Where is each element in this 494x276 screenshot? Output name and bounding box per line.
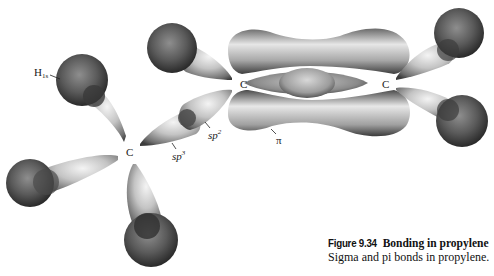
h-sphere-lower-left-overlap bbox=[33, 169, 59, 195]
h-sphere-upper-right-overlap bbox=[437, 39, 459, 61]
pi-lobe-upper bbox=[228, 29, 410, 75]
h-sphere-bottom-overlap bbox=[134, 213, 160, 239]
h1s-label: H1s bbox=[34, 67, 48, 80]
figure-caption: Figure 9.34 Bonding in propylene Sigma a… bbox=[328, 236, 494, 264]
sp2-main: sp bbox=[208, 129, 218, 141]
sp2-superscript: 2 bbox=[218, 128, 222, 136]
pi-label: π bbox=[276, 135, 282, 146]
sp3-label: sp3 bbox=[172, 150, 185, 162]
h-sphere-upper-left bbox=[147, 23, 197, 73]
vinyl-h-upper-left bbox=[147, 23, 232, 80]
carbon-right-label: C bbox=[382, 79, 389, 90]
carbon-sp3-label: C bbox=[126, 147, 133, 158]
figure-title: Bonding in propylene bbox=[383, 237, 489, 249]
sp3-leader bbox=[172, 143, 176, 149]
h-sphere-left-overlap bbox=[83, 85, 105, 107]
pi-lobe-lower bbox=[228, 90, 410, 136]
sigma-core bbox=[279, 68, 335, 98]
sp2-label: sp2 bbox=[208, 129, 221, 141]
vinyl-h-right bbox=[396, 8, 488, 147]
sp3-superscript: 3 bbox=[182, 149, 186, 157]
carbon-left-label: C bbox=[240, 79, 247, 90]
sp2-leader bbox=[205, 122, 210, 128]
sp3-main: sp bbox=[172, 150, 182, 162]
caption-title: Figure 9.34 Bonding in propylene bbox=[328, 236, 494, 250]
methyl-carbon-orbitals bbox=[39, 88, 232, 229]
h-sphere-lower-right-overlap bbox=[437, 99, 459, 121]
overlap-sp3-sp2 bbox=[178, 109, 196, 127]
caption-text: Sigma and pi bonds in propylene. bbox=[328, 250, 494, 264]
propylene-orbital-diagram bbox=[0, 0, 494, 276]
h-orbital-subscript: 1s bbox=[42, 72, 48, 80]
figure-number: Figure 9.34 bbox=[328, 236, 377, 250]
h-symbol: H bbox=[34, 66, 42, 78]
